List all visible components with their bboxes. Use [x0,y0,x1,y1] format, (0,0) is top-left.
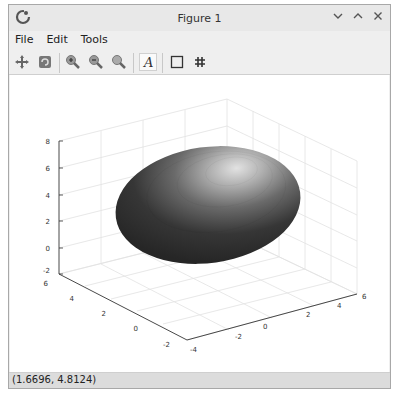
toolbar-separator [133,53,134,73]
svg-text:A: A [143,55,153,70]
menu-file[interactable]: File [9,31,40,49]
pan-button[interactable] [13,53,31,71]
cursor-coordinates: (1.6696, 4.8124) [12,374,96,385]
svg-text:4: 4 [337,302,342,310]
plot-canvas[interactable]: 8 6 4 2 0 -2 6 4 2 0 -2 -4 -2 0 2 4 [10,75,389,374]
toolbar: A [9,49,390,75]
svg-text:2: 2 [46,218,50,226]
svg-text:0: 0 [134,325,138,333]
svg-text:2: 2 [102,310,106,318]
menu-tools[interactable]: Tools [75,31,115,49]
svg-text:-2: -2 [235,333,242,341]
chevron-down-icon [332,10,344,22]
toolbar-separator [59,53,60,73]
svg-text:4: 4 [70,295,75,303]
rotate-icon [36,53,54,71]
toolbar-separator [162,53,163,73]
3d-axes[interactable]: 8 6 4 2 0 -2 6 4 2 0 -2 -4 -2 0 2 4 [10,75,389,374]
menu-bar: File Edit Tools [9,31,390,49]
title-bar[interactable]: Figure 1 [9,5,390,31]
zoom-reset-icon [110,53,128,71]
y-axis-ticks: 6 4 2 0 -2 [44,280,170,349]
insert-text-button[interactable]: A [139,53,157,71]
zoom-out-icon [87,53,105,71]
svg-text:6: 6 [46,165,51,173]
maximize-button[interactable] [351,10,364,24]
minimize-button[interactable] [331,10,344,24]
axes-box-button[interactable] [168,53,186,71]
svg-text:0: 0 [263,323,267,331]
z-axis-ticks: 8 6 4 2 0 -2 [43,138,63,275]
pan-icon [13,53,31,71]
svg-text:4: 4 [46,192,51,200]
zoom-in-icon [64,53,82,71]
menu-edit[interactable]: Edit [40,31,74,49]
svg-text:8: 8 [46,138,50,146]
figure-window: Figure 1 File Edit Tools [8,4,391,389]
grid-button[interactable] [191,53,209,71]
svg-text:-2: -2 [43,267,50,275]
chevron-up-icon [352,10,364,22]
svg-text:-4: -4 [190,346,198,354]
svg-text:-2: -2 [163,341,170,349]
status-bar: (1.6696, 4.8124) [9,372,390,388]
svg-text:6: 6 [362,293,367,301]
zoom-in-button[interactable] [64,53,82,71]
zoom-reset-button[interactable] [110,53,128,71]
text-icon: A [140,54,156,70]
close-button[interactable] [371,10,384,24]
close-icon [372,10,384,22]
rotate-button[interactable] [36,53,54,71]
axes-box-icon [168,53,186,71]
svg-text:6: 6 [44,280,49,288]
svg-text:2: 2 [306,311,310,319]
zoom-out-button[interactable] [87,53,105,71]
svg-text:0: 0 [46,245,50,253]
grid-icon [191,53,209,71]
